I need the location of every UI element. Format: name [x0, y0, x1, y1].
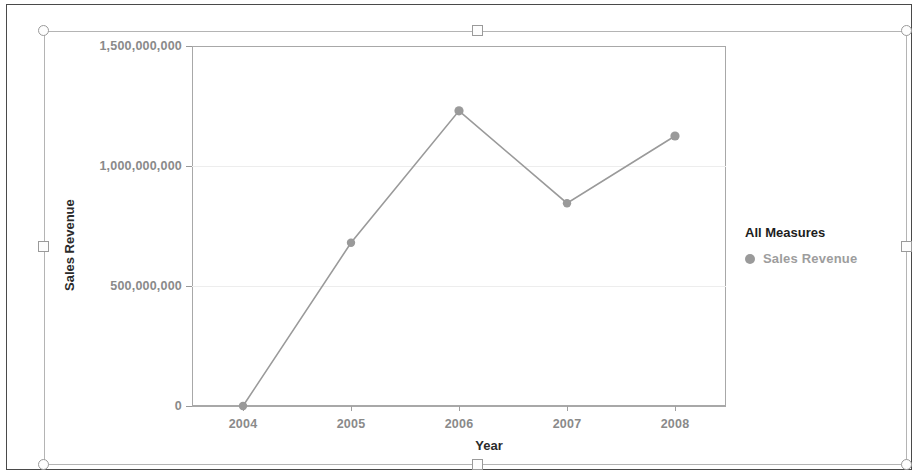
resize-handle-bottom-right[interactable] — [901, 459, 912, 470]
resize-handle-top-left[interactable] — [38, 25, 49, 36]
resize-handle-bottom-middle[interactable] — [472, 459, 483, 470]
resize-handle-middle-right[interactable] — [901, 241, 912, 252]
screenshot-root: 1,500,000,000 1,000,000,000 500,000,000 … — [0, 0, 918, 475]
resize-handle-top-middle[interactable] — [472, 25, 483, 36]
resize-handle-bottom-left[interactable] — [38, 459, 49, 470]
resize-handle-middle-left[interactable] — [38, 241, 49, 252]
resize-handle-top-right[interactable] — [901, 25, 912, 36]
selection-rectangle — [44, 31, 907, 465]
